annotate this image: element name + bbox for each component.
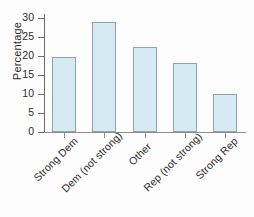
y-tick-label-wrap: 20 bbox=[0, 56, 34, 57]
bar bbox=[213, 94, 237, 132]
x-tick-mark bbox=[64, 133, 65, 138]
bar bbox=[52, 57, 76, 132]
y-tick-mark bbox=[38, 94, 44, 95]
y-tick-label-wrap: 30 bbox=[0, 18, 34, 19]
y-axis-spine bbox=[44, 14, 45, 133]
bar bbox=[92, 22, 116, 132]
x-category-label: Rep (not strong) bbox=[141, 130, 204, 193]
x-tick-mark bbox=[225, 133, 226, 138]
x-tick-mark bbox=[145, 133, 146, 138]
y-tick-mark bbox=[38, 18, 44, 19]
x-category-label: Other bbox=[126, 140, 153, 167]
bar bbox=[133, 47, 157, 132]
y-tick-label: 5 bbox=[4, 106, 34, 118]
y-tick-label-wrap: 5 bbox=[0, 113, 34, 114]
y-tick-mark bbox=[38, 56, 44, 57]
y-tick-mark bbox=[38, 132, 44, 133]
y-tick-label-wrap: 15 bbox=[0, 75, 34, 76]
y-tick-label: 25 bbox=[4, 30, 34, 42]
y-tick-mark bbox=[38, 113, 44, 114]
y-tick-label: 10 bbox=[4, 87, 34, 99]
x-tick-mark bbox=[104, 133, 105, 138]
y-tick-label-wrap: 25 bbox=[0, 37, 34, 38]
bar bbox=[173, 63, 197, 132]
bar-chart-figure: Percentage 051015202530 Strong DemDem (n… bbox=[0, 0, 254, 217]
y-tick-mark bbox=[38, 37, 44, 38]
y-tick-label: 30 bbox=[4, 11, 34, 23]
y-tick-mark bbox=[38, 75, 44, 76]
y-tick-label-wrap: 10 bbox=[0, 94, 34, 95]
y-tick-label-wrap: 0 bbox=[0, 132, 34, 133]
y-tick-label: 0 bbox=[4, 125, 34, 137]
y-tick-label: 20 bbox=[4, 49, 34, 61]
x-tick-mark bbox=[185, 133, 186, 138]
y-tick-label: 15 bbox=[4, 68, 34, 80]
